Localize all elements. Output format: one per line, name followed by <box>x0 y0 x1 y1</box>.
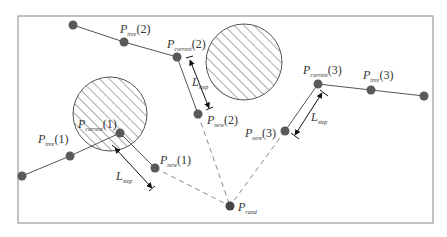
label-step1: Lstep <box>115 169 132 184</box>
label-tree2: Ptree(2) <box>119 22 150 37</box>
obstacle-right <box>206 24 282 100</box>
new1-node <box>151 164 160 173</box>
label-step2: Lstep <box>191 75 208 90</box>
label-current2: Pcurrent(2) <box>166 37 206 52</box>
label-step3: Lstep <box>310 110 327 125</box>
new2-node <box>194 110 203 119</box>
label-new1: Pnew(1) <box>159 153 191 168</box>
tree3-root-node <box>420 92 429 101</box>
label-tree1: Ptree(1) <box>37 132 68 147</box>
label-new2: Pnew(2) <box>206 113 238 128</box>
current1-node <box>116 129 125 138</box>
tree3-node <box>367 86 376 95</box>
rrt-diagram: Ptree(1) Pcurrent(1) Pnew(1) Lstep Ptree… <box>0 0 447 237</box>
tree1-root-node <box>18 172 27 181</box>
tree2-node <box>120 38 129 47</box>
label-rand: Prand <box>237 200 258 215</box>
label-new3: Pnew(3) <box>244 126 276 141</box>
new3-node <box>281 127 290 136</box>
current2-node <box>173 53 182 62</box>
label-current3: Pcurrent(3) <box>302 63 342 78</box>
tree2-root-node <box>69 21 78 30</box>
current3-node <box>314 80 323 89</box>
obstacle-left <box>73 77 147 151</box>
label-tree3: Ptree(3) <box>362 68 393 83</box>
tree1-node <box>66 152 75 161</box>
rand-node <box>226 202 235 211</box>
